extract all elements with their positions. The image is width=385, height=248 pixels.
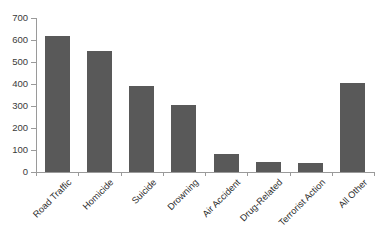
y-axis-line — [36, 18, 37, 172]
x-axis-tick — [121, 172, 122, 176]
bar — [214, 154, 239, 172]
bar — [298, 163, 323, 172]
bar — [129, 86, 154, 172]
bar-chart: 7006005004003002001000 Road TrafficHomic… — [0, 0, 385, 248]
y-axis-tick-label: 100 — [0, 145, 28, 155]
y-axis-tick — [31, 106, 36, 107]
bar — [87, 51, 112, 172]
bar — [171, 105, 196, 172]
x-axis-tick — [374, 172, 375, 176]
y-axis-tick — [31, 18, 36, 19]
bar — [256, 162, 281, 172]
x-axis-tick-label: Homicide — [82, 178, 116, 212]
x-axis-tick-label: All Other — [337, 178, 369, 210]
x-axis-tick-label: Drug-Related — [239, 178, 285, 224]
x-axis-tick — [78, 172, 79, 176]
y-axis-tick-label: 400 — [0, 79, 28, 89]
x-axis-tick — [332, 172, 333, 176]
y-axis-tick-label: 600 — [0, 35, 28, 45]
y-axis-tick-label: 0 — [0, 167, 28, 177]
y-axis-tick-label: 200 — [0, 123, 28, 133]
x-axis-tick-label: Suicide — [130, 178, 158, 206]
x-axis-tick — [36, 172, 37, 176]
x-axis-tick-label: Drowning — [166, 178, 200, 212]
bar — [45, 36, 70, 172]
x-axis-tick — [205, 172, 206, 176]
y-axis-tick-label: 500 — [0, 57, 28, 67]
x-axis-tick-label: Terrorist Action — [277, 178, 327, 228]
x-axis-tick — [163, 172, 164, 176]
y-axis-tick — [31, 150, 36, 151]
x-axis-tick — [247, 172, 248, 176]
y-axis-tick-label: 300 — [0, 101, 28, 111]
x-axis-tick-label: Road Traffic — [32, 178, 74, 220]
y-axis-tick-label: 700 — [0, 13, 28, 23]
x-axis-tick-label: Air Accident — [201, 178, 242, 219]
y-axis-tick — [31, 84, 36, 85]
y-axis-tick — [31, 62, 36, 63]
bar — [340, 83, 365, 172]
y-axis-tick — [31, 40, 36, 41]
x-axis-tick — [290, 172, 291, 176]
y-axis-tick — [31, 128, 36, 129]
